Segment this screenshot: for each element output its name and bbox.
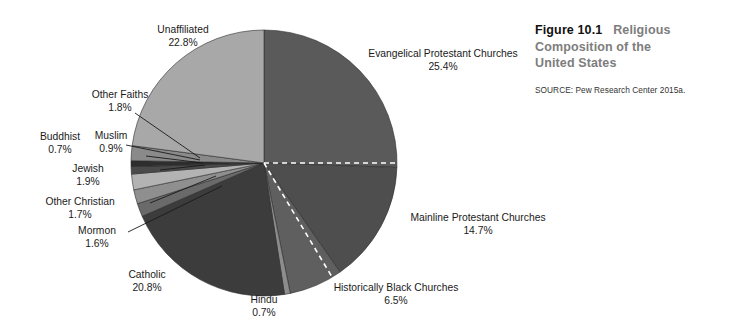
label-hindu: Hindu 0.7%: [228, 294, 300, 319]
label-mormon: Mormon 1.6%: [58, 225, 136, 250]
caption-title-line-1: Religious: [613, 23, 670, 37]
label-hindu-pct: 0.7%: [228, 307, 300, 320]
label-mormon-pct: 1.6%: [58, 238, 136, 251]
label-historically-black-name: Historically Black Churches: [334, 282, 459, 293]
caption-first-line: Figure 10.1 Religious: [535, 22, 727, 39]
label-other-faiths-name: Other Faiths: [92, 89, 149, 100]
label-mainline-protestant-churches: Mainline Protestant Churches 14.7%: [388, 212, 568, 237]
label-evangelical-pct: 25.4%: [343, 61, 543, 74]
caption-title-line-2: Composition of the: [535, 39, 727, 56]
label-jewish-pct: 1.9%: [48, 176, 128, 189]
label-muslim-name: Muslim: [95, 130, 128, 141]
label-evangelical-name: Evangelical Protestant Churches: [368, 48, 517, 59]
label-catholic-name: Catholic: [128, 269, 165, 280]
label-evangelical-protestant-churches: Evangelical Protestant Churches 25.4%: [343, 48, 543, 73]
label-other-christian-pct: 1.7%: [10, 209, 150, 222]
label-other-faiths-pct: 1.8%: [60, 102, 180, 115]
label-catholic: Catholic 20.8%: [103, 269, 191, 294]
label-historically-black-churches: Historically Black Churches 6.5%: [313, 282, 479, 307]
label-unaffiliated-pct: 22.8%: [113, 37, 253, 50]
label-mormon-name: Mormon: [78, 225, 116, 236]
label-mainline-name: Mainline Protestant Churches: [410, 212, 545, 223]
label-unaffiliated: Unaffiliated 22.8%: [113, 24, 253, 49]
label-historically-black-pct: 6.5%: [313, 295, 479, 308]
figure-caption: Figure 10.1 Religious Composition of the…: [535, 22, 727, 96]
label-jewish-name: Jewish: [72, 163, 103, 174]
label-muslim: Muslim 0.9%: [78, 130, 144, 155]
label-hindu-name: Hindu: [251, 294, 278, 305]
label-mainline-pct: 14.7%: [388, 225, 568, 238]
figure-source: SOURCE: Pew Research Center 2015a.: [535, 85, 727, 96]
label-muslim-pct: 0.9%: [78, 143, 144, 156]
label-jewish: Jewish 1.9%: [48, 163, 128, 188]
figure-religious-composition: Unaffiliated 22.8% Other Faiths 1.8% Bud…: [0, 0, 735, 335]
caption-title-line-3: United States: [535, 55, 727, 72]
label-other-christian-name: Other Christian: [45, 196, 114, 207]
label-other-christian: Other Christian 1.7%: [10, 196, 150, 221]
label-buddhist-name: Buddhist: [40, 131, 80, 142]
label-catholic-pct: 20.8%: [103, 282, 191, 295]
label-unaffiliated-name: Unaffiliated: [157, 24, 208, 35]
figure-number: Figure 10.1: [535, 23, 602, 37]
label-other-faiths: Other Faiths 1.8%: [60, 89, 180, 114]
